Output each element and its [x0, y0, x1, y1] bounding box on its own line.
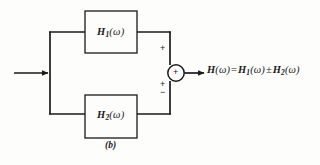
block-h2-label-argument: (ω) — [109, 109, 124, 120]
equation-lhs-argument: (ω) — [215, 64, 230, 75]
equation-term2-argument: (ω) — [285, 64, 300, 75]
equation-equals-sign: = — [230, 64, 238, 75]
summing-junction-top-input-sign: + — [160, 44, 165, 53]
output-equation: H(ω)=H1(ω)±H2(ω) — [207, 64, 300, 77]
block-h2-label: H2(ω) — [97, 109, 124, 122]
block-h1-label-argument: (ω) — [109, 26, 124, 37]
figure-caption: (b) — [105, 140, 116, 150]
block-h1-label: H1(ω) — [97, 26, 124, 39]
equation-term1-argument: (ω) — [250, 64, 265, 75]
equation-term2-main: H — [273, 64, 281, 75]
equation-plus-minus-operator: ± — [265, 64, 273, 75]
summing-junction-bottom-input-minus-sign: − — [160, 88, 165, 97]
summing-junction-inner-sign: + — [173, 68, 178, 77]
